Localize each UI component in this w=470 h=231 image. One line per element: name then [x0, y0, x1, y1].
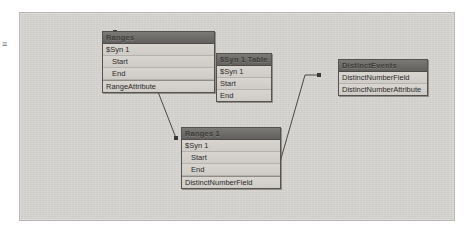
table-node-ranges[interactable]: Ranges $Syn 1 Start End RangeAttribute [102, 31, 215, 93]
diagram-canvas[interactable]: Ranges $Syn 1 Start End RangeAttribute $… [19, 12, 455, 221]
table-node-body: $Syn 1 Start End [217, 66, 271, 101]
table-node-syn1table[interactable]: $Syn 1 Table $Syn 1 Start End [216, 53, 272, 102]
table-node-body: $Syn 1 Start End DistinctNumberField [182, 140, 280, 188]
table-row[interactable]: DistinctNumberAttribute [339, 84, 427, 95]
arrowhead-ranges1 [174, 136, 178, 140]
table-node-ranges1[interactable]: Ranges 1 $Syn 1 Start End DistinctNumber… [181, 127, 281, 189]
table-row[interactable]: $Syn 1 [217, 66, 271, 78]
table-node-title: DistinctEvents [339, 60, 427, 72]
table-row[interactable]: Start [103, 56, 214, 68]
table-node-title: Ranges 1 [182, 128, 280, 140]
table-node-body: $Syn 1 Start End RangeAttribute [103, 44, 214, 92]
table-row[interactable]: DistinctNumberField [182, 176, 280, 188]
table-row[interactable]: End [217, 90, 271, 101]
table-node-body: DistinctNumberField DistinctNumberAttrib… [339, 72, 427, 95]
arrowhead-distinctevents [317, 73, 321, 77]
table-row[interactable]: DistinctNumberField [339, 72, 427, 84]
table-node-title: Ranges [103, 32, 214, 44]
page-margin-marker: ≡ [2, 40, 6, 49]
table-node-title: $Syn 1 Table [217, 54, 271, 66]
table-row[interactable]: Start [217, 78, 271, 90]
table-row[interactable]: $Syn 1 [103, 44, 214, 56]
table-row[interactable]: $Syn 1 [182, 140, 280, 152]
table-row[interactable]: End [103, 68, 214, 80]
table-row[interactable]: End [182, 164, 280, 176]
table-row[interactable]: RangeAttribute [103, 80, 214, 92]
table-node-distinctevents[interactable]: DistinctEvents DistinctNumberField Disti… [338, 59, 428, 96]
table-row[interactable]: Start [182, 152, 280, 164]
screenshot-root: ≡ Ranges $Syn 1 Start End [0, 0, 470, 231]
